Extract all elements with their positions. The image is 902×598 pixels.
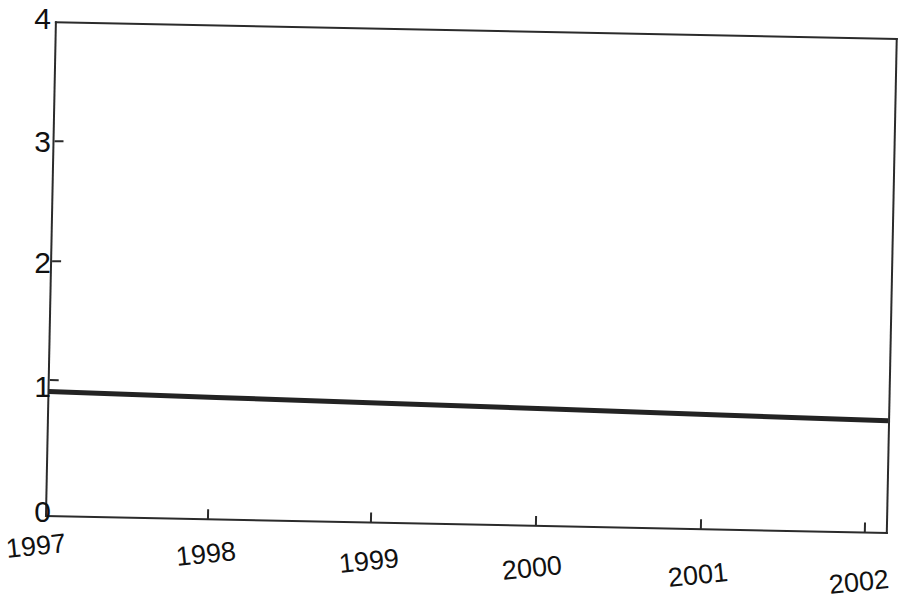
- x-tick-label-2002: 2002: [828, 566, 891, 598]
- data-series-line: [48, 392, 888, 421]
- plot-area: [0, 0, 902, 598]
- y-tick-label-4: 4: [17, 4, 51, 34]
- y-tick-label-1: 1: [17, 372, 51, 402]
- x-tick-label-2000: 2000: [501, 552, 564, 585]
- y-tick-label-3: 3: [17, 127, 51, 157]
- x-tick-label-1998: 1998: [175, 538, 238, 571]
- y-tick-label-0: 0: [17, 497, 51, 527]
- x-tick-label-1997: 1997: [5, 530, 68, 563]
- x-tick-label-2001: 2001: [667, 559, 730, 592]
- x-tick-label-1999: 1999: [338, 545, 401, 578]
- y-tick-label-2: 2: [17, 248, 51, 278]
- caption-remnant: [8, 583, 308, 591]
- data-line-layer: [0, 0, 902, 598]
